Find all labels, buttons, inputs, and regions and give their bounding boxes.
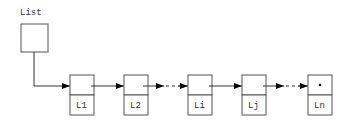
node-label: L1 — [76, 101, 87, 111]
node-label: Ln — [314, 101, 325, 111]
node-ln: Ln — [308, 75, 332, 115]
head-arrow — [34, 52, 70, 86]
head-label: List — [20, 8, 42, 18]
null-pointer-icon — [319, 84, 322, 87]
node-l1: L1 — [70, 75, 94, 115]
node-label: Lj — [248, 101, 259, 111]
node-li: Li — [188, 75, 212, 115]
node-lj: Lj — [242, 75, 266, 115]
linked-list-diagram: List L1 L2 Li Lj Ln — [0, 0, 353, 127]
node-label: Li — [194, 101, 205, 111]
node-label: L2 — [130, 101, 141, 111]
head-box — [21, 24, 48, 52]
node-l2: L2 — [124, 75, 148, 115]
